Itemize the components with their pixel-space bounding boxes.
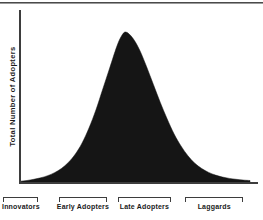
y-axis-label: Total Number of Adopters: [8, 17, 17, 177]
category-late-adopters: Late Adopters: [118, 190, 171, 220]
bracket-innovators: [3, 197, 38, 202]
category-innovators: Innovators: [3, 190, 38, 220]
plot-area: Total Number of Adopters: [0, 0, 263, 190]
category-early-adopters: Early Adopters: [59, 190, 107, 220]
x-axis-line: [19, 182, 258, 184]
adopter-category-brackets: Innovators Early Adopters Late Adopters …: [0, 190, 263, 220]
adopter-distribution-curve: [0, 0, 263, 190]
bracket-laggards: [185, 197, 243, 202]
category-label-late-adopters: Late Adopters: [106, 203, 183, 210]
y-axis-line: [19, 10, 21, 184]
category-label-innovators: Innovators: [0, 203, 50, 210]
category-laggards: Laggards: [185, 190, 243, 220]
bracket-early-adopters: [59, 197, 107, 202]
adopter-curve-figure: Total Number of Adopters Innovators Earl…: [0, 0, 263, 220]
bracket-late-adopters: [118, 197, 171, 202]
category-label-laggards: Laggards: [173, 203, 255, 210]
